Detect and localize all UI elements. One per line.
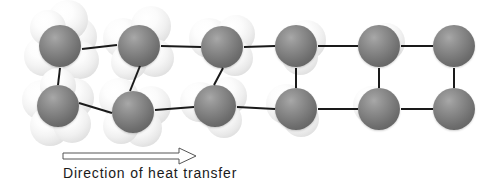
heat-transfer-arrow [63, 148, 196, 164]
heat-conduction-figure: Direction of heat transfer [0, 0, 491, 188]
heat-transfer-arrow-layer [0, 0, 491, 188]
